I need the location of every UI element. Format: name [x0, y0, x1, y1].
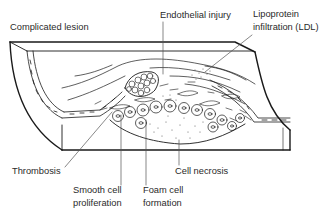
- label-smooth-cell-line1: Smooth cell: [73, 185, 122, 196]
- label-endothelial-injury: Endothelial injury: [160, 10, 231, 21]
- atherosclerosis-diagram: Complicated lesion Endothelial injury Li…: [0, 0, 330, 218]
- label-cell-necrosis: Cell necrosis: [175, 166, 228, 177]
- smooth-muscle-cells: [95, 82, 251, 121]
- leader-lipoprotein: [205, 35, 252, 72]
- label-foam-cell-line1: Foam cell: [143, 185, 183, 196]
- label-foam-cell-line2: formation: [143, 198, 182, 209]
- label-lipoprotein-line1: Lipoprotein: [253, 9, 299, 20]
- label-complicated-lesion: Complicated lesion: [10, 22, 89, 33]
- vessel-wall-outline: [10, 42, 290, 150]
- label-thrombosis: Thrombosis: [12, 166, 61, 177]
- foam-cells: [113, 100, 245, 132]
- label-smooth-cell-line2: proliferation: [73, 198, 122, 209]
- leader-thrombosis: [65, 112, 112, 167]
- endothelial-layer: [27, 51, 290, 122]
- leader-lines: [65, 22, 252, 185]
- necrotic-core: [110, 120, 245, 144]
- thrombus: [125, 72, 158, 97]
- label-lipoprotein-line2: infiltration (LDL): [253, 22, 319, 33]
